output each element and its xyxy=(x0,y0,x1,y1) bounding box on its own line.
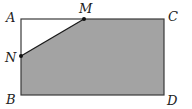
label-d: D xyxy=(166,93,178,108)
label-n: N xyxy=(4,50,17,65)
geometry-figure: A M C N B D xyxy=(0,0,192,109)
label-a: A xyxy=(5,10,15,25)
point-n xyxy=(19,54,23,58)
label-b: B xyxy=(5,92,16,107)
label-m: M xyxy=(78,1,93,16)
label-c: C xyxy=(168,9,178,24)
shaded-region xyxy=(21,19,164,95)
point-m xyxy=(82,17,86,21)
